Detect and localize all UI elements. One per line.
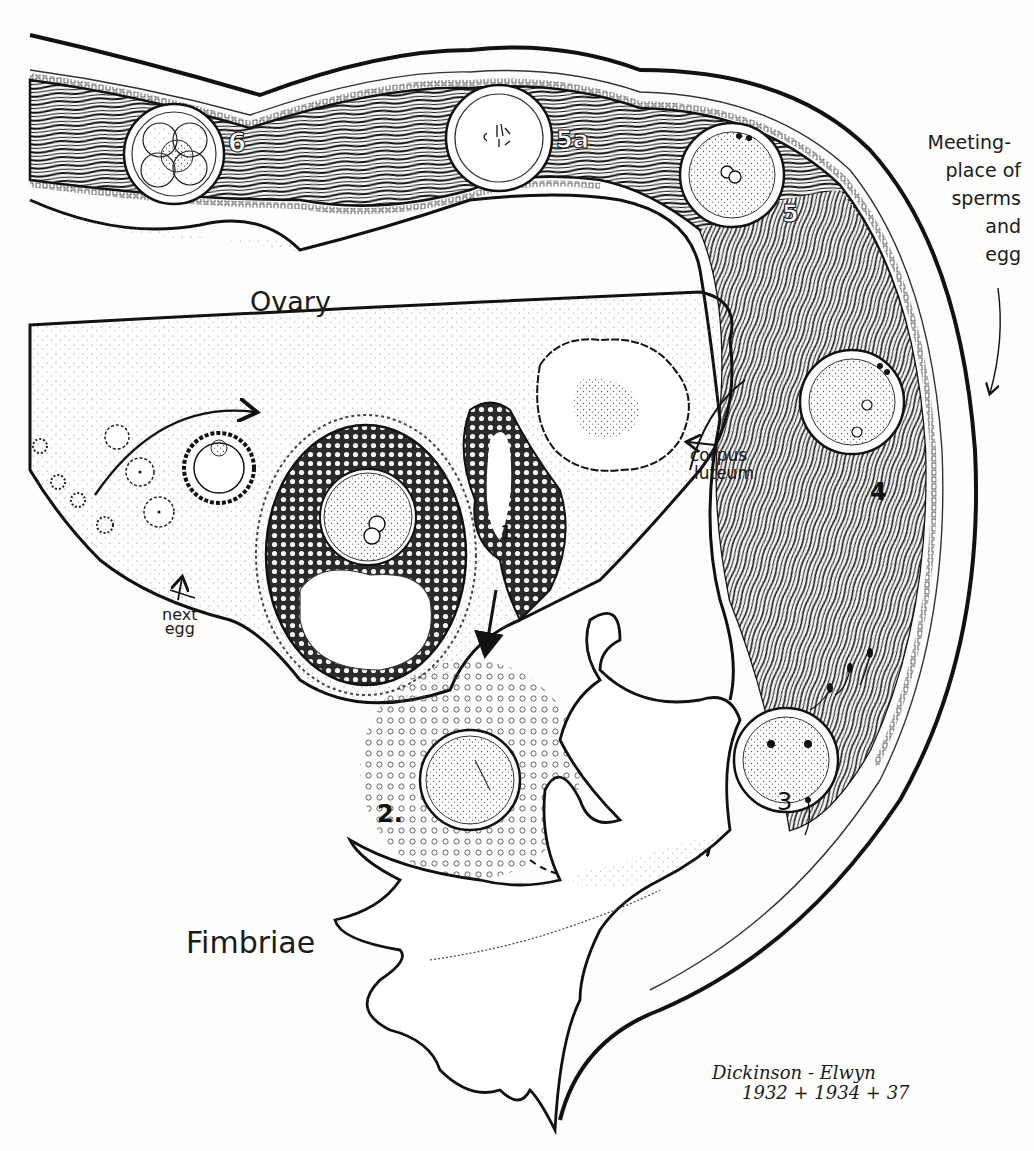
- ovary-label: Ovary: [250, 286, 331, 317]
- stage-3-number: 3: [777, 788, 792, 816]
- signature-line2: 1932 + 1934 + 37: [712, 1083, 910, 1103]
- meeting-place-arrow: [990, 288, 1000, 393]
- oocyte-stage-5: [680, 123, 784, 227]
- ovary: [30, 292, 745, 703]
- stage-2-number: 2.: [377, 800, 403, 828]
- embryo-stage-6: [124, 104, 224, 204]
- meeting-place-line2: place of: [900, 156, 1025, 184]
- meeting-place-label: Meeting- place of sperms and egg: [900, 128, 1025, 268]
- stage-1-number: 1.: [500, 520, 519, 544]
- next-egg-label: next egg: [162, 608, 197, 636]
- corpus-luteum-line2: luteum: [690, 464, 754, 482]
- stage-6-number: 6: [228, 128, 246, 158]
- meeting-place-line1: Meeting-: [900, 128, 1015, 156]
- stage-4-number: 4: [870, 478, 887, 506]
- oocyte-stage-4: [800, 350, 904, 454]
- meeting-place-line5: egg: [900, 240, 1025, 268]
- signature: Dickinson - Elwyn 1932 + 1934 + 37: [712, 1063, 910, 1103]
- meeting-place-line3: sperms: [900, 184, 1025, 212]
- stage-5a-number: 5a: [556, 126, 589, 154]
- meeting-place-line4: and: [900, 212, 1025, 240]
- illustration-canvas: Ovary Fimbriae corpus luteum next egg Me…: [0, 0, 1034, 1151]
- signature-line1: Dickinson - Elwyn: [712, 1063, 910, 1083]
- stage-5-number: 5: [782, 200, 799, 228]
- corpus-luteum-line1: corpus: [690, 446, 754, 464]
- fimbriae-label: Fimbriae: [186, 925, 315, 960]
- anatomy-drawing: [0, 0, 1034, 1151]
- corpus-luteum-label: corpus luteum: [690, 446, 754, 482]
- oocyte-stage-5a: [446, 85, 552, 191]
- next-egg-line2: egg: [162, 622, 197, 636]
- growing-follicle: [184, 433, 254, 503]
